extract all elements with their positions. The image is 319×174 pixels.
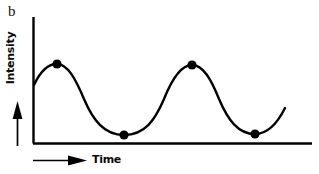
figure-panel: b Intensity Time (0, 0, 319, 174)
data-point-marker (250, 129, 259, 138)
right-arrow-icon (33, 155, 87, 165)
y-axis-label-text: Intensity (4, 32, 17, 85)
intensity-curve (34, 64, 285, 135)
x-axis-label-text: Time (92, 153, 121, 166)
data-point-marker (52, 59, 61, 68)
data-point-marker (187, 60, 196, 69)
data-point-marker (119, 130, 128, 139)
y-axis-label: Intensity (2, 29, 18, 87)
up-arrow-icon (13, 101, 23, 146)
plot-canvas (0, 0, 319, 174)
